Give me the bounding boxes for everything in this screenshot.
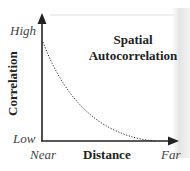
x-axis-label: Distance [83,147,131,163]
y-axis-label: Correlation [5,51,21,116]
chart-title: Spatial Autocorrelation [88,32,178,64]
title-line-2: Autocorrelation [88,48,178,64]
y-axis-arrow-icon [38,13,47,24]
x-tick-near: Near [30,147,56,163]
x-tick-far: Far [161,147,181,163]
y-tick-high: High [10,23,36,39]
y-tick-low: Low [13,131,35,147]
x-axis-arrow-icon [168,137,179,146]
title-line-1: Spatial [88,32,178,48]
spatial-autocorrelation-diagram: High Low Near Far Distance Correlation S… [0,0,190,171]
